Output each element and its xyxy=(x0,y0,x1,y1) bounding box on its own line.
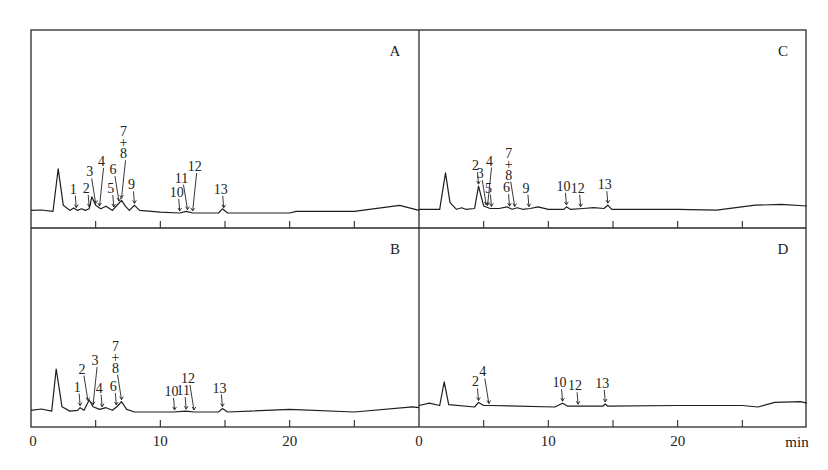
peak-annotation: 10 xyxy=(556,179,570,205)
peak-annotation: 11 xyxy=(176,383,189,409)
peak-label: 2 xyxy=(472,374,479,389)
peak-annotation: 12 xyxy=(188,159,202,211)
peak-annotation: 4 xyxy=(486,154,493,206)
peak-label: 2 xyxy=(78,362,85,377)
peak-label: 4 xyxy=(98,154,105,169)
peak-annotation: 12 xyxy=(568,378,582,404)
panel-label-d: D xyxy=(778,241,789,257)
x-tick-label-left-20: 20 xyxy=(282,433,297,449)
x-tick-label-right-10: 10 xyxy=(541,433,556,449)
peak-label: 1 xyxy=(74,380,81,395)
peak-annotation: 7+8 xyxy=(120,124,128,198)
peak-leader-arrow xyxy=(193,173,197,211)
peak-annotation: 3 xyxy=(91,353,98,405)
peak-leader-arrow xyxy=(118,375,122,400)
x-tick-label-right-20: 20 xyxy=(670,433,685,449)
peak-label: 5 xyxy=(107,181,114,196)
peak-label: 10 xyxy=(556,179,570,194)
peak-label: 2 xyxy=(83,181,90,196)
peak-label: 12 xyxy=(188,159,202,174)
peak-label: 11 xyxy=(175,171,188,186)
chromatogram-figure: A1234567+8910111213 B123467+810111213 C2… xyxy=(0,0,828,470)
peak-label: 4 xyxy=(479,364,486,379)
peak-label: 6 xyxy=(109,162,116,177)
peak-annotation: 2 xyxy=(83,181,91,207)
peak-leader-arrow xyxy=(183,185,187,210)
panel-c: C234567+89101213 xyxy=(419,43,807,210)
panel-b: B123467+810111213 xyxy=(31,241,419,412)
peak-annotation: 6 xyxy=(110,379,118,405)
peak-annotation: 1 xyxy=(70,182,78,208)
peak-annotation: 6 xyxy=(503,180,511,206)
peak-annotation: 4 xyxy=(479,364,490,403)
peak-label: 3 xyxy=(86,164,93,179)
peak-label: 12 xyxy=(571,181,585,196)
x-tick-label-left-0: 0 xyxy=(29,433,37,449)
peak-label: 5 xyxy=(485,181,492,196)
peak-annotation: 10 xyxy=(553,375,567,401)
peak-label: 6 xyxy=(110,379,117,394)
peak-annotation: 10 xyxy=(170,185,184,211)
panel-label-c: C xyxy=(778,43,788,59)
peak-annotation: 5 xyxy=(107,181,115,207)
peak-label: 9 xyxy=(522,181,529,196)
peak-annotation: 12 xyxy=(571,181,585,207)
peak-leader-arrow xyxy=(115,176,119,201)
x-axis-unit-label: min xyxy=(785,434,809,450)
panel-label-b: B xyxy=(390,241,400,257)
peak-annotation: 1 xyxy=(74,380,82,406)
peak-annotation: 4 xyxy=(96,381,104,407)
peak-annotation: 13 xyxy=(595,376,609,402)
peak-label: 8 xyxy=(505,168,512,183)
peak-label: 13 xyxy=(214,182,228,197)
peak-label: 8 xyxy=(112,361,119,376)
peak-label: 13 xyxy=(598,177,612,192)
peak-leader-arrow xyxy=(84,376,88,401)
peak-label: 3 xyxy=(477,166,484,181)
peak-label: 4 xyxy=(486,154,493,169)
peak-label: 12 xyxy=(568,378,582,393)
peak-label: 8 xyxy=(120,146,127,161)
peak-leader-arrow xyxy=(122,160,126,198)
panel-a: A1234567+8910111213 xyxy=(31,43,419,213)
peak-leader-arrow xyxy=(100,168,104,206)
peak-label: 13 xyxy=(212,381,226,396)
peak-annotation: 9 xyxy=(522,181,530,207)
peak-label: 3 xyxy=(92,353,99,368)
peak-leader-arrow xyxy=(511,182,515,207)
peak-label: 4 xyxy=(96,381,103,396)
peak-label: 13 xyxy=(595,376,609,391)
peak-label: 12 xyxy=(181,371,195,386)
peak-annotation: 13 xyxy=(598,177,612,203)
peak-leader-arrow xyxy=(190,385,194,410)
x-tick-label-left-10: 10 xyxy=(153,433,168,449)
peak-annotation: 4 xyxy=(98,154,105,206)
peak-annotation: 13 xyxy=(214,182,228,208)
peak-label: 9 xyxy=(128,177,135,192)
peak-label: 1 xyxy=(70,182,77,197)
peak-leader-arrow xyxy=(485,378,489,403)
peak-label: 10 xyxy=(170,185,184,200)
peak-annotation: 7+8 xyxy=(505,146,517,207)
peak-annotation: 13 xyxy=(212,381,226,407)
panel-label-a: A xyxy=(390,43,401,59)
peak-annotation: 9 xyxy=(128,177,136,203)
x-tick-label-right-0: 0 xyxy=(415,433,423,449)
panel-d: D24101213 xyxy=(419,241,807,407)
peak-label: 10 xyxy=(553,375,567,390)
